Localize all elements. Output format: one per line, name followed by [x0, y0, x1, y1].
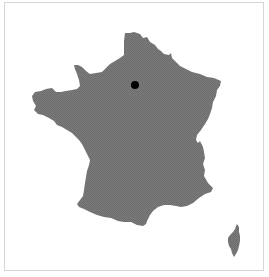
france-map — [0, 0, 269, 277]
paris-marker[interactable] — [131, 81, 139, 89]
corsica — [228, 224, 240, 257]
mainland-france — [32, 32, 221, 226]
